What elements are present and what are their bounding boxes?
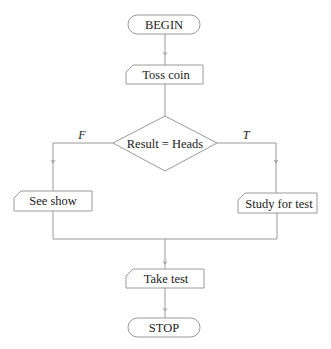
- node-study-label: Study for test: [245, 197, 313, 211]
- node-see-show-label: See show: [29, 194, 77, 208]
- node-decision-label: Result = Heads: [127, 137, 204, 151]
- edge-merge: [53, 211, 277, 239]
- node-begin-label: BEGIN: [145, 18, 183, 32]
- node-take-test-label: Take test: [144, 272, 189, 286]
- node-begin: BEGIN: [128, 15, 200, 34]
- node-toss-coin-label: Toss coin: [142, 68, 190, 82]
- edge-decision-study: [217, 143, 276, 193]
- node-take-test: Take test: [126, 269, 204, 288]
- flowchart: BEGIN Toss coin Result = Heads F T See s…: [0, 0, 331, 349]
- node-stop-label: STOP: [149, 321, 179, 335]
- branch-true-label: T: [243, 128, 251, 142]
- node-see-show: See show: [14, 191, 92, 211]
- edge-decision-see-show: [53, 143, 113, 191]
- node-stop: STOP: [128, 318, 200, 337]
- node-decision: Result = Heads: [113, 116, 217, 171]
- branch-false-label: F: [77, 128, 86, 142]
- node-toss-coin: Toss coin: [126, 65, 203, 84]
- node-study-for-test: Study for test: [238, 193, 317, 213]
